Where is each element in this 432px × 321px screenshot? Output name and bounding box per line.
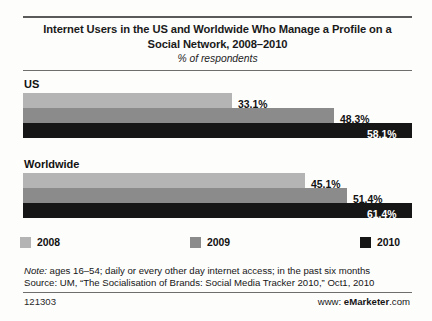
subtitle-rule xyxy=(23,70,412,71)
legend-label-2010: 2010 xyxy=(377,237,400,248)
note-prefix: Note: xyxy=(24,265,47,276)
legend-swatch-2009 xyxy=(190,237,201,248)
source-text: Source: UM, “The Socialisation of Brands… xyxy=(24,277,416,288)
group-label-worldwide: Worldwide xyxy=(24,158,79,170)
bar-worldwide-2010 xyxy=(23,203,412,218)
legend-swatch-2008 xyxy=(20,237,31,248)
top-rule xyxy=(23,16,412,18)
bar-value-worldwide-2010: 61.4% xyxy=(367,207,396,222)
emarketer-url: www: eMarketer.com xyxy=(318,296,410,307)
footer-rule xyxy=(23,292,412,293)
bar-worldwide-2008 xyxy=(23,173,305,188)
group-label-us: US xyxy=(24,78,39,90)
legend-swatch-2010 xyxy=(360,237,371,248)
chart-subtitle: % of respondents xyxy=(23,53,412,64)
chart-sheet: Internet Users in the US and Worldwide W… xyxy=(0,0,432,321)
url-brand: eMarketer xyxy=(344,296,389,307)
bar-us-2010 xyxy=(23,123,412,138)
chart-id: 121303 xyxy=(24,296,56,307)
bar-value-us-2010: 58.1% xyxy=(367,127,396,142)
bar-us-2008 xyxy=(23,93,232,108)
bar-us-2009 xyxy=(23,108,334,123)
legend-label-2008: 2008 xyxy=(37,237,60,248)
chart-title-line-2: Social Network, 2008–2010 xyxy=(148,38,288,50)
legend-item-2010: 2010 xyxy=(360,236,400,249)
url-prefix: www: xyxy=(318,296,344,307)
legend-item-2009: 2009 xyxy=(190,236,230,249)
legend-label-2009: 2009 xyxy=(207,237,230,248)
legend-item-2008: 2008 xyxy=(20,236,60,249)
url-suffix: .com xyxy=(389,296,410,307)
bar-worldwide-2009 xyxy=(23,188,347,203)
chart-title: Internet Users in the US and Worldwide W… xyxy=(23,22,412,51)
note-text: Note: ages 16–54; daily or every other d… xyxy=(24,265,416,276)
note-body: ages 16–54; daily or every other day int… xyxy=(47,265,370,276)
chart-title-line-1: Internet Users in the US and Worldwide W… xyxy=(43,23,391,35)
